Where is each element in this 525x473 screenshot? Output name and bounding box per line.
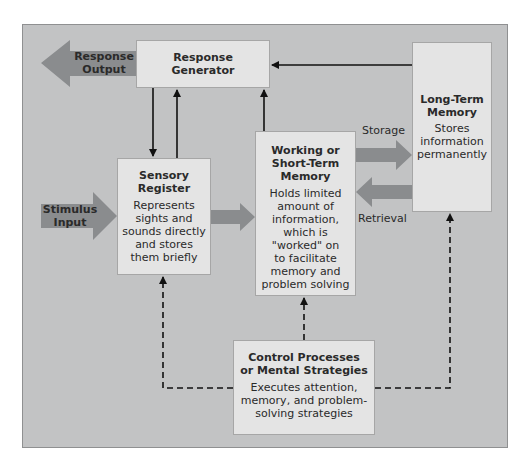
storage-arrow (356, 140, 412, 170)
sensory-title-2: Register (118, 182, 210, 195)
working-desc-5: "worked" on (272, 239, 339, 252)
stimulus-input-line2: Input (54, 216, 87, 229)
control-title-2: or Mental Strategies (234, 364, 374, 377)
response-output-label: Response Output (72, 50, 136, 76)
response-generator-title-2: Generator (137, 64, 269, 77)
working-desc-2: amount of (277, 200, 334, 213)
working-memory-box: Working or Short-Term Memory Holds limit… (255, 131, 356, 296)
sensory-desc-2: sights and (136, 212, 193, 225)
control-to-sensory-dashed (163, 277, 233, 388)
response-output-line2: Output (82, 63, 125, 76)
response-generator-box: Response Generator (136, 40, 270, 88)
storage-label: Storage (362, 124, 405, 137)
working-desc-4: which is (283, 226, 327, 239)
working-desc-6: to facilitate (274, 252, 337, 265)
ltm-desc-3: permanently (417, 148, 487, 161)
sensory-desc-3: sounds directly (122, 225, 206, 238)
control-desc-2: memory, and problem- (241, 394, 368, 407)
ltm-desc-2: information (420, 135, 484, 148)
sensory-desc-5: them briefly (130, 251, 197, 264)
sensory-desc-1: Represents (133, 199, 194, 212)
control-title-1: Control Processes (234, 351, 374, 364)
response-generator-title-1: Response (137, 51, 269, 64)
sensory-register-box: Sensory Register Represents sights and s… (117, 158, 211, 275)
retrieval-arrow (356, 177, 412, 207)
sensory-desc-4: and stores (135, 238, 193, 251)
control-processes-box: Control Processes or Mental Strategies E… (233, 340, 375, 435)
working-desc-7: memory and (270, 265, 340, 278)
working-desc-3: information, (272, 213, 339, 226)
control-to-ltm-dashed (375, 214, 450, 388)
working-title-2: Short-Term (256, 157, 355, 170)
working-title-1: Working or (256, 144, 355, 157)
ltm-desc-1: Stores (435, 122, 470, 135)
working-desc-8: problem solving (261, 278, 349, 291)
ltm-title-2: Memory (413, 106, 491, 119)
sensory-title-1: Sensory (118, 169, 210, 182)
sensory-to-working-arrow (211, 203, 255, 231)
control-desc-1: Executes attention, (251, 381, 358, 394)
response-output-line1: Response (74, 50, 134, 63)
working-desc-1: Holds limited (269, 187, 341, 200)
working-title-3: Memory (256, 170, 355, 183)
stimulus-input-label: Stimulus Input (42, 203, 98, 229)
retrieval-label: Retrieval (358, 212, 407, 225)
control-desc-3: solving strategies (255, 407, 352, 420)
ltm-title-1: Long-Term (413, 93, 491, 106)
stimulus-input-line1: Stimulus (43, 203, 97, 216)
long-term-memory-box: Long-Term Memory Stores information perm… (412, 42, 492, 212)
